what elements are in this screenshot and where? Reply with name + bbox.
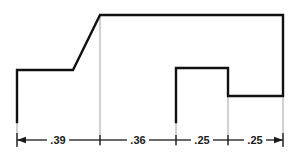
dimension-label-dim-3: .25 xyxy=(194,134,209,146)
part-profile-outline xyxy=(17,15,283,122)
technical-drawing-canvas: .39.36.25.25 xyxy=(0,0,289,165)
dimension-label-dim-2: .36 xyxy=(130,134,145,146)
arrowhead-right xyxy=(274,137,283,143)
dimension-label-dim-4: .25 xyxy=(247,134,262,146)
technical-drawing-svg: .39.36.25.25 xyxy=(0,0,289,165)
dimension-label-dim-1: .39 xyxy=(50,134,65,146)
arrowhead-left xyxy=(17,137,26,143)
extension-lines-group xyxy=(17,15,283,146)
